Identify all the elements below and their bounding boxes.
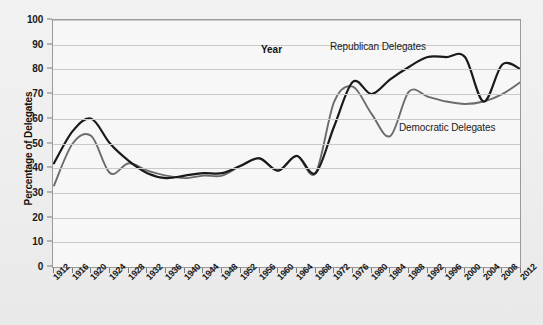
y-tick-label: 20 xyxy=(32,211,43,222)
series-line-republican xyxy=(54,54,521,178)
gridline xyxy=(53,218,520,219)
x-axis: 1912191619201924192819321936194019441948… xyxy=(0,268,543,325)
y-tick-mark xyxy=(47,266,52,267)
gridline xyxy=(53,168,520,169)
y-tick-label: 30 xyxy=(32,186,43,197)
y-tick-label: 40 xyxy=(32,162,43,173)
gridline xyxy=(53,193,520,194)
y-tick-mark xyxy=(47,241,52,242)
gridline xyxy=(53,69,520,70)
gridline xyxy=(53,20,520,21)
y-tick-label: 100 xyxy=(27,14,43,25)
x-tick-label: 2012 xyxy=(518,262,538,282)
gridline xyxy=(53,144,520,145)
y-tick-label: 70 xyxy=(32,88,43,99)
y-tick-label: 60 xyxy=(32,112,43,123)
series-label-democratic: Democratic Delegates xyxy=(399,122,495,133)
series-line-democratic xyxy=(54,82,521,186)
y-tick-mark xyxy=(47,68,52,69)
y-tick-mark xyxy=(47,216,52,217)
y-tick-mark xyxy=(47,117,52,118)
y-tick-mark xyxy=(47,93,52,94)
y-tick-label: 50 xyxy=(32,137,43,148)
gridline xyxy=(53,94,520,95)
y-tick-label: 80 xyxy=(32,63,43,74)
gridline xyxy=(53,119,520,120)
series-label-republican: Republican Delegates xyxy=(330,41,426,52)
y-tick-mark xyxy=(47,142,52,143)
y-axis-title: Percentage of Delegates xyxy=(23,59,34,239)
y-tick-mark xyxy=(47,167,52,168)
chart-container: 0102030405060708090100 Percentage of Del… xyxy=(0,0,543,325)
plot-area xyxy=(52,19,521,268)
y-tick-label: 10 xyxy=(32,236,43,247)
y-tick-mark xyxy=(47,191,52,192)
y-tick-mark xyxy=(47,19,52,20)
x-axis-title: Year xyxy=(0,44,543,55)
gridline xyxy=(53,242,520,243)
